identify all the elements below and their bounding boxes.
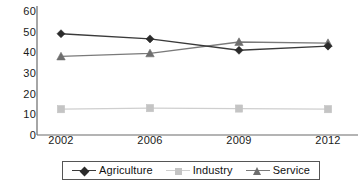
x-axis-tick-2006: 2006 <box>130 135 170 146</box>
legend-label: Agriculture <box>99 165 153 176</box>
x-axis-tick-2002: 2002 <box>41 135 81 146</box>
legend-item-agriculture[interactable]: Agriculture <box>72 165 153 176</box>
triangle-marker-icon <box>246 166 270 176</box>
axis-lines <box>37 6 358 135</box>
legend-item-service[interactable]: Service <box>246 165 310 176</box>
legend-label: Service <box>273 165 310 176</box>
square-marker-icon <box>166 166 190 176</box>
x-axis-tick-2012: 2012 <box>308 135 348 146</box>
plot-svg <box>0 0 361 148</box>
diamond-marker-icon <box>72 166 96 176</box>
legend-item-industry[interactable]: Industry <box>166 165 233 176</box>
series-industry <box>57 105 331 113</box>
line-chart: 0102030405060 2002200620092012 Agricultu… <box>0 0 361 185</box>
chart-legend: AgricultureIndustryService <box>62 161 320 180</box>
series-service <box>57 38 332 60</box>
plot-area <box>0 0 361 148</box>
legend-label: Industry <box>193 165 233 176</box>
x-axis-tick-labels: 2002200620092012 <box>0 135 361 153</box>
x-axis-tick-2009: 2009 <box>219 135 259 146</box>
